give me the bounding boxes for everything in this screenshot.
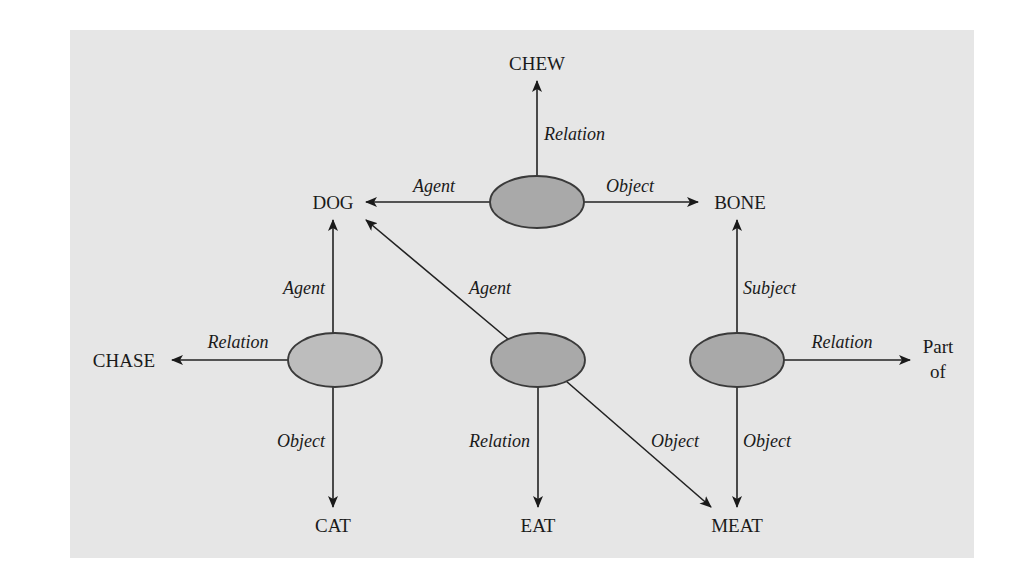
label-p3-object: Object <box>651 431 700 451</box>
proposition-node-eat <box>491 333 585 387</box>
propositional-network-diagram: CHEW DOG BONE CHASE CAT EAT MEAT Part of… <box>0 0 1036 580</box>
label-p4-object: Object <box>743 431 792 451</box>
label-p3-agent: Agent <box>468 278 512 298</box>
proposition-node-part-of <box>690 333 784 387</box>
proposition-node-chew <box>490 176 584 228</box>
node-bone: BONE <box>714 192 766 213</box>
node-part-of-line2: of <box>930 361 947 382</box>
label-p2-object: Object <box>277 431 326 451</box>
label-p4-relation: Relation <box>811 332 873 352</box>
label-p2-relation: Relation <box>207 332 269 352</box>
node-eat: EAT <box>521 515 556 536</box>
node-dog: DOG <box>312 192 353 213</box>
node-meat: MEAT <box>711 515 763 536</box>
node-part-of-line1: Part <box>923 336 954 357</box>
label-p3-relation: Relation <box>468 431 530 451</box>
diagram-background <box>70 30 974 558</box>
proposition-node-chase <box>288 333 382 387</box>
node-cat: CAT <box>315 515 351 536</box>
label-p1-relation: Relation <box>543 124 605 144</box>
label-p1-object: Object <box>606 176 655 196</box>
label-p1-agent: Agent <box>412 176 456 196</box>
label-p2-agent: Agent <box>282 278 326 298</box>
node-chase: CHASE <box>93 350 155 371</box>
label-p4-subject: Subject <box>743 278 797 298</box>
node-chew: CHEW <box>509 53 565 74</box>
